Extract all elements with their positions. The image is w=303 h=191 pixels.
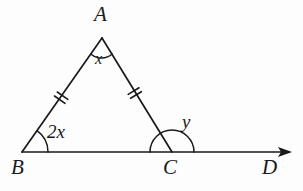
geometry-canvas: [0, 0, 303, 191]
vertex-label-C: C: [163, 157, 177, 178]
angle-arc-C: [150, 130, 194, 152]
vertex-label-A: A: [94, 4, 107, 25]
vertex-label-B: B: [11, 157, 24, 178]
geometry-figure: A B C D x 2x y: [0, 0, 303, 191]
vertex-label-D: D: [262, 157, 277, 178]
tick-marks-AC: [128, 88, 141, 99]
angle-label-2x: 2x: [47, 122, 65, 141]
angle-label-x: x: [95, 51, 102, 67]
angle-label-y: y: [182, 112, 190, 131]
ray-BD: [22, 147, 292, 157]
